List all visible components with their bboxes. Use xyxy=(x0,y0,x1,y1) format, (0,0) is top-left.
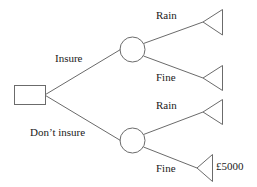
terminal-node-insure-rain[interactable] xyxy=(203,10,223,36)
branch-label-insure: Insure xyxy=(55,52,83,64)
chance-node-dont-insure[interactable] xyxy=(120,128,145,153)
tree-graphics xyxy=(0,0,257,187)
branch-label-insure-fine: Fine xyxy=(156,71,176,83)
chance-node-insure[interactable] xyxy=(120,37,145,62)
branch-label-dont-insure: Don’t insure xyxy=(30,126,85,138)
branch-label-dont-insure-fine: Fine xyxy=(156,162,176,174)
decision-tree-diagram: Insure Don’t insure Rain Fine Rain Fine … xyxy=(0,0,257,187)
terminal-node-insure-fine[interactable] xyxy=(203,66,223,91)
terminal-node-dont-insure-fine[interactable] xyxy=(197,155,213,182)
branch-label-insure-rain: Rain xyxy=(156,9,177,21)
branch-insure-rain[interactable] xyxy=(144,22,204,44)
terminal-node-dont-insure-rain[interactable] xyxy=(203,100,223,125)
decision-node[interactable] xyxy=(15,86,46,105)
branch-label-dont-insure-rain: Rain xyxy=(156,99,177,111)
payoff-label-dont-insure-fine: £5000 xyxy=(216,160,244,172)
branch-dont-insure-rain[interactable] xyxy=(144,112,204,135)
